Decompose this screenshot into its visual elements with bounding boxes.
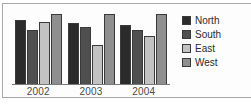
legend-swatch-south-icon [182,30,191,39]
legend-swatch-north-icon [182,16,191,25]
legend-item-north[interactable]: North [182,14,242,27]
bar-south-2004 [132,30,143,85]
bar-east-2003 [92,45,103,85]
bar-south-2003 [80,27,91,85]
category-axis-line [12,84,170,85]
bar-south-2002 [27,30,38,85]
legend-label: South [195,29,221,40]
legend-swatch-west-icon [182,58,191,67]
legend-label: North [195,15,219,26]
bar-north-2002 [15,20,26,85]
legend-label: East [195,43,215,54]
x-axis-tick-labels: 200220032004 [12,86,170,100]
legend-label: West [195,57,218,68]
bar-north-2004 [120,25,131,85]
chart-image: 200220032004 NorthSouthEastWest [0,0,251,105]
plot-area [12,8,170,85]
bar-group-2002 [15,8,62,85]
bar-west-2004 [156,14,167,85]
x-tick-label-2004: 2004 [117,86,170,97]
legend-item-east[interactable]: East [182,42,242,55]
bar-group-2003 [68,8,115,85]
legend-swatch-east-icon [182,44,191,53]
bar-west-2003 [104,14,115,85]
x-tick-label-2003: 2003 [65,86,118,97]
bar-east-2004 [144,36,155,85]
legend-item-west[interactable]: West [182,56,242,69]
bar-group-2004 [120,8,167,85]
bar-west-2002 [51,14,62,85]
legend-item-south[interactable]: South [182,28,242,41]
bar-north-2003 [68,23,79,85]
x-tick-label-2002: 2002 [12,86,65,97]
bar-east-2002 [39,22,50,85]
chart-legend: NorthSouthEastWest [182,14,242,70]
